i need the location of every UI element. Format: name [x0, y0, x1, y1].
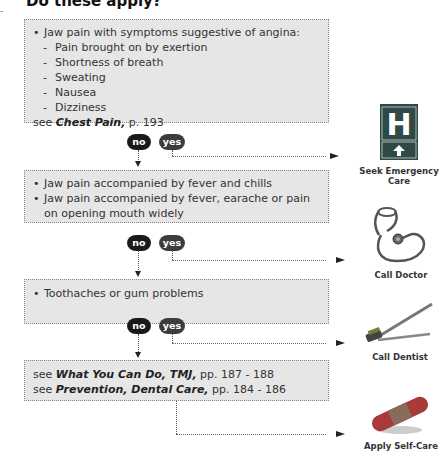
- connector: [172, 251, 173, 260]
- connector: [172, 334, 173, 343]
- ref-pages: pp. 187 - 188: [200, 368, 274, 381]
- symptom-item: Nausea: [33, 85, 320, 100]
- arrow-down-icon: [135, 352, 141, 358]
- bandage-icon: [366, 392, 430, 442]
- box-bullet: Toothaches or gum problems: [33, 286, 320, 301]
- ref-prefix: see: [33, 383, 52, 396]
- box-bullet: Jaw pain accompanied by fever, earache o…: [33, 191, 320, 221]
- arrow-right-icon: [330, 153, 339, 159]
- decision-box-fever: Jaw pain accompanied by fever and chills…: [24, 170, 329, 223]
- stethoscope-icon: [369, 205, 429, 269]
- no-button[interactable]: no: [127, 235, 151, 251]
- ref-pages: p. 193: [129, 116, 164, 129]
- connector: [138, 334, 139, 354]
- arrow-right-icon: [336, 431, 345, 437]
- ref-title: What You Can Do, TMJ,: [56, 368, 197, 381]
- connector: [172, 156, 326, 157]
- ref-title: Chest Pain,: [56, 116, 126, 129]
- connector: [138, 251, 139, 272]
- toothbrush-icon: [362, 300, 434, 350]
- outcome-call-dentist: Call Dentist: [350, 352, 441, 362]
- outcome-apply-self-care: Apply Self-Care: [351, 441, 441, 451]
- hospital-sign-icon: H: [380, 104, 418, 164]
- ref-prefix: see: [33, 116, 52, 129]
- ref-prefix: see: [33, 368, 52, 381]
- no-button[interactable]: no: [127, 134, 151, 150]
- corner-mark: -: [0, 6, 3, 16]
- connector: [176, 401, 177, 434]
- outcome-seek-emergency-care: Seek Emergency Care: [349, 166, 441, 186]
- yes-button[interactable]: yes: [159, 318, 185, 334]
- yes-button[interactable]: yes: [159, 134, 185, 150]
- box-bullet: Jaw pain with symptoms suggestive of ang…: [33, 25, 320, 40]
- reference-dental-care[interactable]: see Prevention, Dental Care, pp. 184 - 1…: [33, 382, 320, 397]
- arrow-down-icon: [135, 271, 141, 277]
- ref-pages: pp. 184 - 186: [212, 383, 286, 396]
- connector: [172, 343, 326, 344]
- connector: [172, 260, 326, 261]
- decision-box-angina: Jaw pain with symptoms suggestive of ang…: [24, 19, 329, 123]
- reference-chest-pain[interactable]: see Chest Pain, p. 193: [33, 115, 320, 130]
- self-care-references: see What You Can Do, TMJ, pp. 187 - 188 …: [24, 360, 329, 401]
- ref-title: Prevention, Dental Care,: [56, 383, 209, 396]
- svg-text:H: H: [386, 107, 411, 142]
- reference-tmj[interactable]: see What You Can Do, TMJ, pp. 187 - 188: [33, 367, 320, 382]
- arrow-right-icon: [336, 340, 345, 346]
- yes-button[interactable]: yes: [159, 235, 185, 251]
- arrow-right-icon: [336, 257, 345, 263]
- arrow-down-icon: [135, 161, 141, 167]
- symptom-item: Pain brought on by exertion: [33, 40, 320, 55]
- symptom-item: Dizziness: [33, 100, 320, 115]
- symptom-item: Shortness of breath: [33, 55, 320, 70]
- outcome-call-doctor: Call Doctor: [351, 270, 441, 280]
- no-button[interactable]: no: [127, 318, 151, 334]
- page-title: Do these apply?: [26, 0, 162, 10]
- box-bullet: Jaw pain accompanied by fever and chills: [33, 176, 320, 191]
- symptom-item: Sweating: [33, 70, 320, 85]
- connector: [176, 434, 326, 435]
